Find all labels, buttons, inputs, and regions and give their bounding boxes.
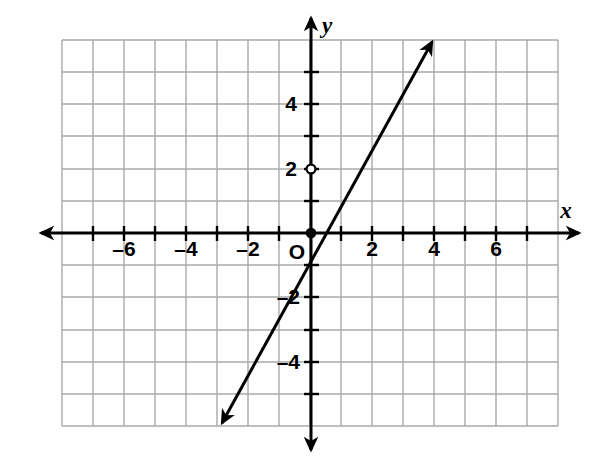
origin-label: O <box>289 240 305 263</box>
y-tick-label-2: 2 <box>285 157 297 180</box>
y-tick-label-4: 4 <box>285 92 297 115</box>
x-tick-label-neg2: –2 <box>236 237 259 260</box>
x-tick-label-4: 4 <box>428 237 440 260</box>
y-tick-label-neg4: –4 <box>277 350 301 373</box>
x-tick-label-neg6: –6 <box>112 237 135 260</box>
point-y-intercept <box>307 165 316 174</box>
y-axis-label: y <box>319 13 333 38</box>
point-origin <box>306 228 315 237</box>
y-tick-label-neg2: –2 <box>277 285 300 308</box>
graph-figure: –6 –4 –2 2 4 6 4 2 –2 –4 O x y <box>0 0 602 461</box>
x-tick-label-2: 2 <box>366 237 378 260</box>
x-tick-label-neg4: –4 <box>174 237 198 260</box>
x-tick-label-6: 6 <box>490 237 502 260</box>
x-axis-label: x <box>559 198 572 223</box>
coordinate-plane-svg: –6 –4 –2 2 4 6 4 2 –2 –4 O x y <box>0 0 602 461</box>
